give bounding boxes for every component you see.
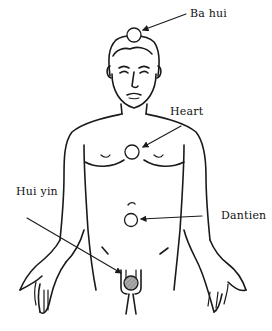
heart-pointer <box>143 126 181 147</box>
hui-yin-label: Hui yin <box>16 186 58 197</box>
heart-label: Heart <box>170 106 203 117</box>
neck <box>121 104 147 114</box>
hui-yin-pointer <box>27 218 121 273</box>
ba-hui-pointer <box>143 14 186 30</box>
right-arm <box>184 230 246 312</box>
ba-hui-label: Ba hui <box>190 8 227 19</box>
dantien-label: Dantien <box>221 210 266 221</box>
torso <box>60 114 210 290</box>
head <box>107 36 161 108</box>
figure-drawing <box>0 0 272 331</box>
dantien-point <box>125 214 138 227</box>
dantien-pointer <box>141 216 202 219</box>
hui-yin-point <box>124 276 138 290</box>
left-arm <box>20 230 84 313</box>
heart-point <box>125 145 139 159</box>
body-points-diagram: Ba hui Heart Dantien Hui yin <box>0 0 272 331</box>
ba-hui-point <box>127 28 141 42</box>
